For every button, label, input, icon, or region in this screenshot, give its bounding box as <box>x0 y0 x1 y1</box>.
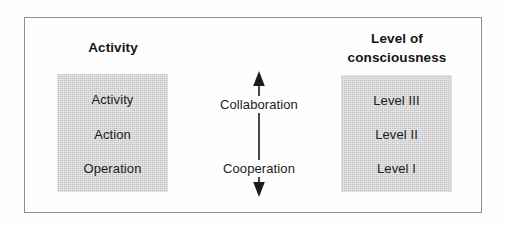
consciousness-levels-box: Level III Level II Level I <box>341 75 452 192</box>
collaboration-label: Collaboration <box>197 96 321 113</box>
arrow-up-icon <box>253 71 265 86</box>
center-arrow-assembly: Collaboration Cooperation <box>197 68 321 200</box>
level-item-three: Level III <box>341 83 452 117</box>
cooperation-label: Cooperation <box>197 160 321 177</box>
cooperation-label-text: Cooperation <box>221 160 297 177</box>
arrow-down-icon <box>253 182 265 197</box>
activity-levels-box: Activity Action Operation <box>57 74 168 192</box>
activity-column-heading: Activity <box>48 38 178 57</box>
consciousness-column-heading: Level of consciousness <box>328 29 466 67</box>
activity-item-operation: Operation <box>57 151 168 186</box>
double-headed-arrow-icon <box>197 68 321 200</box>
level-item-one: Level I <box>341 152 452 186</box>
collaboration-label-text: Collaboration <box>218 96 300 113</box>
figure-canvas: Activity Activity Action Operation Colla… <box>0 0 505 229</box>
activity-item-action: Action <box>57 117 168 152</box>
level-item-two: Level II <box>341 117 452 151</box>
activity-item-activity: Activity <box>57 82 168 117</box>
